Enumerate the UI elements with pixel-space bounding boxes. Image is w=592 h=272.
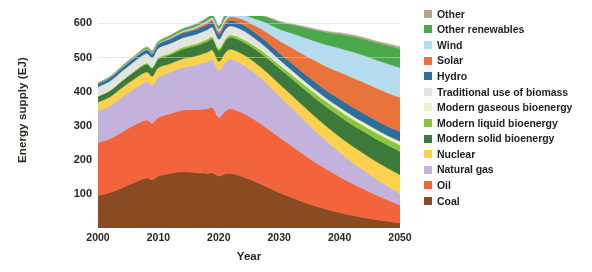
y-tick-500: 500 (46, 52, 92, 63)
legend-swatch-modern-solid-bioenergy (424, 135, 432, 143)
legend-swatch-traditional-use-of-biomass (424, 88, 432, 96)
legend-item-nuclear[interactable]: Nuclear (424, 146, 592, 162)
legend-label-traditional-use-of-biomass: Traditional use of biomass (437, 87, 568, 98)
x-tick-2010: 2010 (135, 232, 181, 243)
y-tick-600: 600 (46, 17, 92, 28)
legend-label-other-renewables: Other renewables (437, 24, 524, 35)
legend-swatch-coal (424, 197, 432, 205)
y-tick-100: 100 (46, 188, 92, 199)
plot-area (98, 16, 400, 228)
legend-item-coal[interactable]: Coal (424, 193, 592, 209)
legend-label-coal: Coal (437, 196, 460, 207)
legend-swatch-modern-gaseous-bioenergy (424, 103, 432, 111)
legend-item-wind[interactable]: Wind (424, 37, 592, 53)
x-tick-2000: 2000 (75, 232, 121, 243)
legend-label-natural-gas: Natural gas (437, 164, 494, 175)
legend-item-modern-solid-bioenergy[interactable]: Modern solid bioenergy (424, 131, 592, 147)
legend-item-modern-liquid-bioenergy[interactable]: Modern liquid bioenergy (424, 115, 592, 131)
legend-label-modern-liquid-bioenergy: Modern liquid bioenergy (437, 118, 558, 129)
legend-item-hydro[interactable]: Hydro (424, 68, 592, 84)
legend-item-modern-gaseous-bioenergy[interactable]: Modern gaseous bioenergy (424, 100, 592, 116)
legend-item-other[interactable]: Other (424, 6, 592, 22)
legend-label-modern-solid-bioenergy: Modern solid bioenergy (437, 133, 554, 144)
legend-label-nuclear: Nuclear (437, 149, 475, 160)
y-tick-200: 200 (46, 154, 92, 165)
legend-label-wind: Wind (437, 40, 462, 51)
x-tick-2040: 2040 (317, 232, 363, 243)
legend-swatch-oil (424, 181, 432, 189)
y-tick-400: 400 (46, 86, 92, 97)
legend-swatch-wind (424, 41, 432, 49)
x-tick-2030: 2030 (256, 232, 302, 243)
x-axis-tick-labels: 200020102020203020402050 (0, 232, 592, 252)
legend-swatch-nuclear (424, 150, 432, 158)
y-tick-300: 300 (46, 120, 92, 131)
legend-item-other-renewables[interactable]: Other renewables (424, 22, 592, 38)
legend-label-solar: Solar (437, 55, 463, 66)
stacked-area-series (98, 16, 400, 228)
y-axis-title: Energy supply (EJ) (16, 25, 28, 195)
gridline-ghost-600 (98, 23, 400, 24)
legend-swatch-solar (424, 57, 432, 65)
gridline-ghost-500 (98, 57, 400, 58)
x-tick-2050: 2050 (377, 232, 423, 243)
legend-label-modern-gaseous-bioenergy: Modern gaseous bioenergy (437, 102, 572, 113)
legend-item-solar[interactable]: Solar (424, 53, 592, 69)
legend-swatch-other-renewables (424, 25, 432, 33)
legend-label-oil: Oil (437, 180, 451, 191)
legend-item-natural-gas[interactable]: Natural gas (424, 162, 592, 178)
legend-swatch-modern-liquid-bioenergy (424, 119, 432, 127)
legend-item-traditional-use-of-biomass[interactable]: Traditional use of biomass (424, 84, 592, 100)
legend-swatch-natural-gas (424, 166, 432, 174)
energy-supply-stacked-area-figure: Energy supply (EJ) Year 1002003004005006… (0, 0, 592, 272)
x-tick-2020: 2020 (196, 232, 242, 243)
legend-swatch-other (424, 10, 432, 18)
legend-label-other: Other (437, 9, 465, 20)
legend-label-hydro: Hydro (437, 71, 467, 82)
chart-legend: OtherOther renewablesWindSolarHydroTradi… (424, 6, 592, 209)
legend-item-oil[interactable]: Oil (424, 178, 592, 194)
legend-swatch-hydro (424, 72, 432, 80)
